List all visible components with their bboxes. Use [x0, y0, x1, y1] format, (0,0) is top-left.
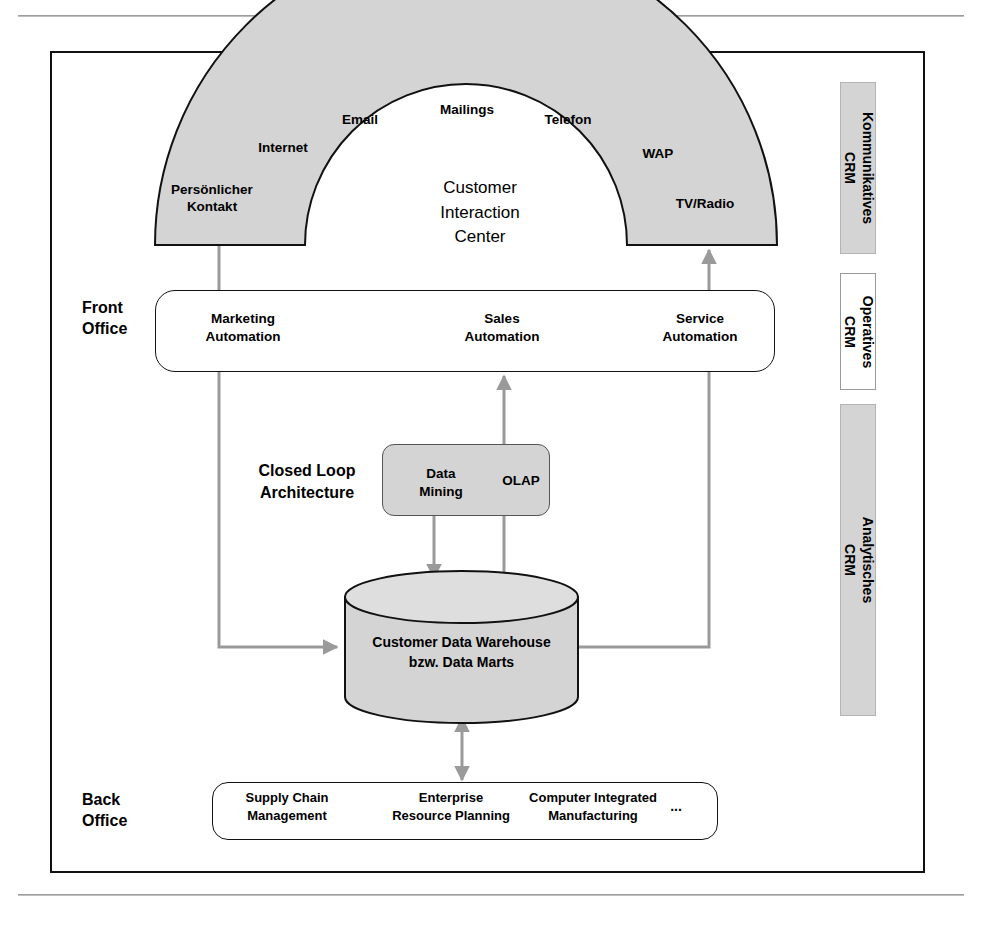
top-horizontal-rule — [18, 15, 964, 17]
channel-label-telefon: Telefon — [518, 112, 618, 129]
crm-band-kommunikatives-text: Kommunikatives CRM — [841, 112, 876, 224]
front-office-item-service: Service Automation — [625, 310, 775, 346]
front-office-item-marketing: Marketing Automation — [168, 310, 318, 346]
crm-band-operatives-line1: Operatives — [858, 295, 876, 367]
diagram-page: Persönlicher Kontakt Internet Email Mail… — [0, 0, 982, 929]
customer-interaction-center-label: Customer Interaction Center — [400, 176, 560, 250]
cut-off-heading — [112, 0, 712, 2]
closed-loop-item-data-mining: Data Mining — [393, 465, 489, 501]
front-office-item-sales: Sales Automation — [427, 310, 577, 346]
channel-label-email: Email — [310, 112, 410, 129]
crm-band-operatives-line2: CRM — [841, 295, 859, 367]
channel-label-mailings: Mailings — [412, 102, 522, 119]
closed-loop-architecture-label: Closed Loop Architecture — [232, 460, 382, 503]
data-warehouse-label: Customer Data Warehouse bzw. Data Marts — [345, 633, 578, 672]
crm-band-kommunikatives: Kommunikatives CRM — [840, 82, 876, 254]
back-office-item-scm: Supply Chain Management — [212, 789, 362, 824]
crm-band-operatives: Operatives CRM — [840, 273, 876, 390]
crm-band-operatives-text: Operatives CRM — [841, 295, 876, 367]
crm-band-analytisches-line2: CRM — [841, 517, 859, 603]
crm-band-kommunikatives-line2: CRM — [841, 112, 859, 224]
bottom-horizontal-rule — [18, 894, 964, 896]
back-office-label: Back Office — [82, 790, 172, 832]
crm-band-kommunikatives-line1: Kommunikatives — [858, 112, 876, 224]
crm-band-analytisches-line1: Analytisches — [858, 517, 876, 603]
channel-label-wap: WAP — [608, 146, 708, 163]
channel-label-personal: Persönlicher Kontakt — [152, 182, 272, 216]
closed-loop-item-olap: OLAP — [490, 473, 552, 488]
channel-label-tvradio: TV/Radio — [650, 196, 760, 213]
channel-label-internet: Internet — [228, 140, 338, 157]
crm-band-analytisches: Analytisches CRM — [840, 404, 876, 716]
back-office-item-ellipsis: ... — [656, 797, 696, 816]
crm-band-analytisches-text: Analytisches CRM — [841, 517, 876, 603]
